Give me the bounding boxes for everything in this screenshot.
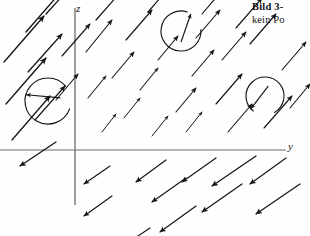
field-vector-arrow bbox=[28, 34, 62, 72]
field-vector-arrow bbox=[290, 84, 310, 108]
field-vector-arrow bbox=[12, 96, 50, 140]
field-vector-arrow bbox=[102, 114, 116, 132]
field-vector-arrow bbox=[20, 142, 56, 166]
circulation-loop-arc bbox=[161, 11, 201, 51]
field-vector-arrow bbox=[112, 52, 134, 78]
axis-label-y: y bbox=[288, 140, 293, 152]
field-vector-arrow bbox=[160, 206, 196, 232]
field-vector-arrow bbox=[250, 158, 286, 184]
vector-field-figure: z y Bild 3- kein Po bbox=[0, 0, 310, 236]
field-vector-arrow bbox=[4, 16, 44, 62]
field-vector-arrow bbox=[202, 0, 226, 14]
axis-label-z: z bbox=[76, 2, 80, 14]
field-vector-arrow bbox=[84, 196, 112, 216]
field-vector-arrow bbox=[120, 228, 150, 236]
field-vector-arrow bbox=[212, 156, 256, 186]
field-vector-arrow bbox=[196, 10, 220, 38]
field-vector-arrow bbox=[256, 184, 300, 214]
field-vector-arrow bbox=[222, 32, 246, 60]
vector-field-canvas bbox=[0, 0, 310, 236]
field-vector-arrow bbox=[136, 160, 166, 182]
field-vector-arrow bbox=[202, 184, 242, 212]
field-vector-arrow bbox=[96, 0, 126, 20]
field-vector-arrow bbox=[152, 116, 168, 136]
field-vector-arrow bbox=[186, 112, 202, 132]
field-vector-arrow bbox=[282, 42, 306, 70]
field-vector-arrow bbox=[124, 98, 140, 118]
figure-caption-subtitle: kein Po bbox=[252, 14, 285, 25]
field-vector-arrow bbox=[6, 58, 46, 104]
field-vector-arrow bbox=[216, 74, 242, 104]
field-vector-arrow bbox=[264, 96, 292, 128]
circulation-loop-arrow bbox=[181, 14, 191, 42]
field-vector-arrow bbox=[192, 50, 214, 76]
field-vector-arrow bbox=[26, 0, 66, 32]
field-vector-arrow bbox=[140, 68, 158, 90]
vector-arrows-group bbox=[4, 0, 310, 236]
axes-group bbox=[0, 8, 286, 205]
figure-caption-title: Bild 3- bbox=[252, 1, 283, 12]
circulation-loop-arrow bbox=[251, 86, 268, 108]
circulation-loops-group bbox=[25, 11, 284, 124]
field-vector-arrow bbox=[88, 76, 106, 98]
field-vector-arrow bbox=[228, 104, 252, 132]
field-vector-arrow bbox=[84, 166, 110, 184]
field-vector-arrow bbox=[35, 86, 65, 120]
circulation-loop-arc bbox=[25, 78, 70, 124]
field-vector-arrow bbox=[62, 24, 90, 56]
field-vector-arrow bbox=[182, 158, 216, 182]
field-vector-arrow bbox=[176, 88, 196, 112]
field-vector-arrow bbox=[152, 178, 186, 202]
field-vector-arrow bbox=[126, 10, 152, 40]
field-vector-arrow bbox=[158, 36, 178, 60]
